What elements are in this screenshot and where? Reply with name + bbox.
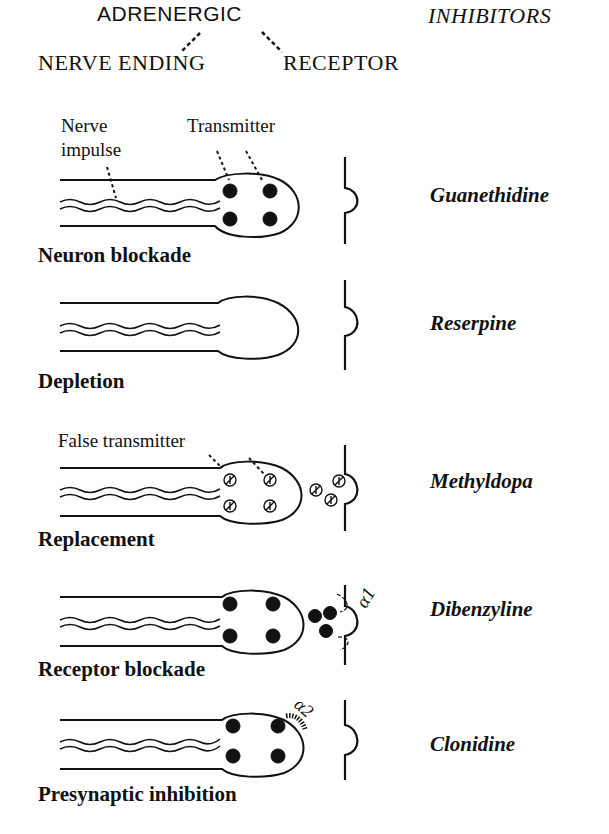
transmitter-vesicle [223,212,237,226]
nerve-impulse-wave [60,324,220,329]
false-transmitter-vesicle [224,500,236,512]
receptor-membrane [345,445,357,531]
released-transmitter [320,625,333,638]
false-transmitter-vesicle [264,500,276,512]
transmitter-pointer [246,151,262,180]
released-false-transmitter [310,484,322,496]
nerve-impulse-wave [60,200,220,205]
transmitter-vesicle [266,629,280,643]
receptor-membrane [345,700,357,780]
nerve-impulse-wave [60,739,220,745]
neuron-row-4: α1 [60,584,379,665]
diagram-canvas: α1 α2 [0,0,609,834]
receptor-membrane [345,157,357,244]
neuron-terminal [60,462,302,524]
transmitter-vesicle [223,629,237,643]
impulse-pointer [107,167,116,198]
released-transmitter [309,610,322,623]
transmitter-vesicle [263,184,277,198]
transmitter-vesicle [266,597,280,611]
nerve-impulse-wave [60,746,220,752]
false-transmitter-pointer [249,458,264,474]
alpha1-label: α1 [351,584,379,611]
nerve-impulse-wave [60,207,220,212]
false-transmitter-vesicle [224,474,236,486]
neuron-terminal [60,714,304,777]
transmitter-vesicle [223,597,237,611]
released-false-transmitter [333,475,345,487]
transmitter-vesicle [263,212,277,226]
nerve-impulse-wave [60,488,220,493]
false-transmitter-vesicle [264,474,276,486]
connector-nerve-ending [181,33,200,52]
released-false-transmitter [325,494,337,506]
nerve-impulse-wave [60,331,220,336]
neuron-row-2 [60,280,357,370]
transmitter-vesicle [271,749,285,763]
receptor-membrane [345,280,357,370]
nerve-impulse-wave [60,618,220,623]
neuron-row-1 [60,151,357,244]
alpha2-label: α2 [290,694,317,721]
transmitter-vesicle [271,719,285,733]
neuron-row-5: α2 [60,694,357,780]
transmitter-vesicle [223,184,237,198]
alpha1-blocker-outline [337,594,348,650]
neuron-row-3 [60,445,357,531]
released-transmitter [324,607,337,620]
false-transmitter-vesicles [224,474,345,512]
nerve-impulse-wave [60,495,220,500]
false-transmitter-pointer [209,455,222,468]
connector-receptor [262,32,282,52]
neuron-terminal [60,174,299,237]
transmitter-vesicle [226,749,240,763]
nerve-impulse-wave [60,625,220,630]
transmitter-vesicle [226,719,240,733]
